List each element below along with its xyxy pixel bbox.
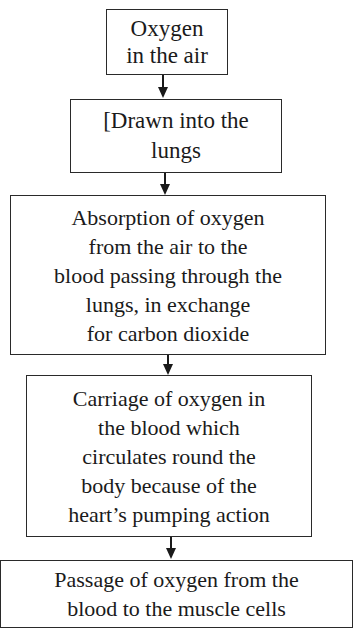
- step-text: Oxygen: [131, 15, 204, 42]
- step-text: in the air: [126, 42, 208, 69]
- step-box-drawn-into-lungs: [Drawn into the lungs: [70, 99, 282, 173]
- step-text: from the air to the: [89, 232, 248, 261]
- step-text: body because of the: [81, 471, 256, 500]
- step-text: Passage of oxygen from the: [54, 565, 298, 594]
- step-text: for carbon dioxide: [87, 319, 250, 348]
- step-text: Absorption of oxygen: [71, 203, 264, 232]
- step-text: blood passing through the: [54, 261, 282, 290]
- step-text: [Drawn into the: [103, 106, 249, 136]
- step-text: Carriage of oxygen in: [73, 384, 265, 413]
- step-text: lungs: [151, 136, 201, 166]
- step-text: lungs, in exchange: [86, 290, 250, 319]
- step-box-passage-to-muscle: Passage of oxygen from the blood to the …: [0, 560, 353, 628]
- step-text: the blood which: [98, 413, 240, 442]
- step-text: heart’s pumping action: [68, 500, 270, 529]
- step-text: circulates round the: [82, 442, 256, 471]
- step-box-carriage: Carriage of oxygen in the blood which ci…: [26, 375, 312, 537]
- step-text: blood to the muscle cells: [67, 594, 286, 623]
- step-box-oxygen-in-air: Oxygen in the air: [106, 9, 228, 75]
- step-box-absorption: Absorption of oxygen from the air to the…: [10, 195, 326, 355]
